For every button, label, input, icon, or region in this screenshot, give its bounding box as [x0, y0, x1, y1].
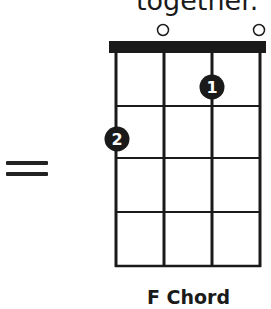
finger-dot-2: 2	[105, 127, 130, 152]
open-string-marker-2	[158, 25, 169, 36]
finger-label-1: 1	[206, 78, 217, 97]
finger-dot-1: 1	[200, 75, 225, 100]
nut	[109, 41, 266, 53]
chord-name-label: F Chord	[147, 286, 230, 308]
chord-diagram: 1 2	[0, 0, 271, 309]
finger-label-2: 2	[111, 130, 122, 149]
open-string-marker-4	[254, 25, 265, 36]
